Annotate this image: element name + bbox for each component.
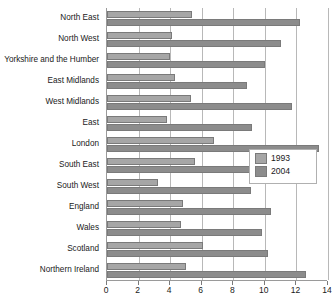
- category-label: North West: [58, 35, 99, 43]
- legend-swatch-2004: [255, 166, 267, 177]
- axis-tick-label: 2: [135, 286, 140, 295]
- bar-group: [107, 92, 327, 113]
- bar-2004: [107, 40, 281, 47]
- bar-1993: [107, 116, 167, 123]
- category-label: England: [69, 203, 99, 211]
- bar-group: [107, 71, 327, 92]
- axis-tick-label: 4: [167, 286, 172, 295]
- bar-1993: [107, 74, 175, 81]
- category-axis-labels: North EastNorth WestYorkshire and the Hu…: [0, 8, 103, 281]
- bar-1993: [107, 179, 158, 186]
- bar-2004: [107, 103, 292, 110]
- bar-1993: [107, 95, 191, 102]
- category-label: Yorkshire and the Humber: [4, 56, 99, 64]
- legend-swatch-1993: [255, 153, 267, 164]
- bar-chart: North EastNorth WestYorkshire and the Hu…: [0, 0, 336, 303]
- axis-tick-label: 0: [104, 286, 109, 295]
- bar-1993: [107, 200, 183, 207]
- bar-2004: [107, 271, 306, 278]
- bar-1993: [107, 242, 203, 249]
- bar-1993: [107, 11, 192, 18]
- bar-2004: [107, 61, 265, 68]
- category-label: Wales: [77, 224, 99, 232]
- legend: 1993 2004: [249, 149, 317, 184]
- bar-1993: [107, 221, 181, 228]
- bar-2004: [107, 208, 271, 215]
- axis-tick-label: 6: [198, 286, 203, 295]
- bar-2004: [107, 19, 300, 26]
- bar-2004: [107, 187, 251, 194]
- bar-1993: [107, 53, 170, 60]
- category-label: Northern Ireland: [40, 266, 99, 274]
- bar-group: [107, 50, 327, 71]
- bar-2004: [107, 229, 262, 236]
- bar-group: [107, 239, 327, 260]
- bar-2004: [107, 82, 247, 89]
- axis-tick-label: 12: [291, 286, 300, 295]
- legend-label-1993: 1993: [271, 154, 290, 163]
- category-label: West Midlands: [45, 98, 99, 106]
- value-axis: 02468101214: [0, 281, 336, 303]
- bar-group: [107, 218, 327, 239]
- gridline: [328, 8, 329, 280]
- category-label: South East: [59, 161, 99, 169]
- category-label: London: [72, 140, 99, 148]
- bar-1993: [107, 137, 214, 144]
- legend-item-2004[interactable]: 2004: [255, 166, 290, 177]
- bar-1993: [107, 158, 195, 165]
- bar-group: [107, 197, 327, 218]
- axis-tick-label: 14: [322, 286, 331, 295]
- legend-label-2004: 2004: [271, 167, 290, 176]
- category-label: East: [83, 119, 99, 127]
- axis-tick-label: 10: [259, 286, 268, 295]
- category-label: East Midlands: [48, 77, 99, 85]
- bar-group: [107, 29, 327, 50]
- category-label: South West: [57, 182, 99, 190]
- bar-1993: [107, 263, 186, 270]
- bar-group: [107, 113, 327, 134]
- bar-group: [107, 260, 327, 281]
- plot-area: [106, 8, 327, 281]
- bar-1993: [107, 32, 172, 39]
- bar-2004: [107, 250, 268, 257]
- category-label: Scotland: [67, 245, 99, 253]
- axis-tick-label: 8: [230, 286, 235, 295]
- category-label: North East: [60, 14, 99, 22]
- bar-2004: [107, 166, 260, 173]
- legend-item-1993[interactable]: 1993: [255, 153, 290, 164]
- bar-group: [107, 8, 327, 29]
- bar-2004: [107, 124, 252, 131]
